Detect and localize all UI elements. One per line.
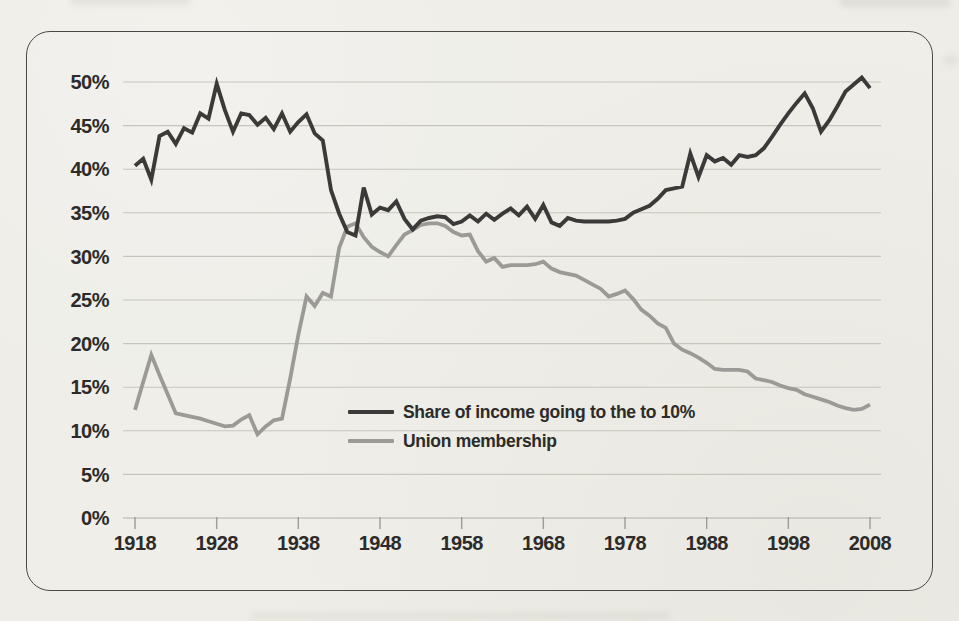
- y-axis-label: 15%: [70, 376, 109, 398]
- legend-label-union-membership: Union membership: [403, 431, 557, 452]
- y-axis-label: 35%: [70, 202, 109, 224]
- x-axis-label: 1918: [114, 532, 157, 554]
- line-chart: 0%5%10%15%20%25%30%35%40%45%50% 19181928…: [0, 0, 959, 621]
- x-axis-label: 1988: [685, 532, 728, 554]
- legend-label-income-share: Share of income going to the to 10%: [403, 402, 695, 423]
- legend-item-union-membership: Union membership: [348, 431, 695, 451]
- x-axis-ticks-group: [135, 517, 870, 529]
- x-axis-label: 1978: [604, 532, 647, 554]
- x-axis-label: 1958: [440, 532, 483, 554]
- x-axis-label: 1938: [277, 532, 320, 554]
- x-axis-labels-group: 1918192819381948195819681978198819982008: [114, 532, 892, 554]
- book-page-scan: { "figure": { "paper_color": "#eeede7", …: [0, 0, 959, 621]
- y-axis-label: 30%: [70, 246, 109, 268]
- x-axis-label: 1998: [767, 532, 810, 554]
- legend-item-income-share: Share of income going to the to 10%: [348, 402, 695, 422]
- y-axis-label: 10%: [70, 420, 109, 442]
- chart-legend: Share of income going to the to 10% Unio…: [348, 402, 695, 451]
- x-axis-label: 2008: [849, 532, 892, 554]
- y-axis-label: 5%: [81, 464, 110, 486]
- x-axis-label: 1968: [522, 532, 565, 554]
- y-axis-label: 25%: [70, 289, 109, 311]
- x-axis-label: 1948: [359, 532, 402, 554]
- union-line-swatch: [348, 439, 394, 443]
- y-axis-label: 45%: [70, 115, 109, 137]
- y-axis-label: 0%: [81, 507, 110, 529]
- gridlines-group: [123, 82, 881, 518]
- x-axis-label: 1928: [195, 532, 238, 554]
- income-line-swatch: [348, 410, 394, 414]
- y-axis-label: 40%: [70, 158, 109, 180]
- y-axis-label: 20%: [70, 333, 109, 355]
- y-axis-labels-group: 0%5%10%15%20%25%30%35%40%45%50%: [70, 71, 109, 529]
- income-share-line: [135, 78, 870, 236]
- y-axis-label: 50%: [70, 71, 109, 93]
